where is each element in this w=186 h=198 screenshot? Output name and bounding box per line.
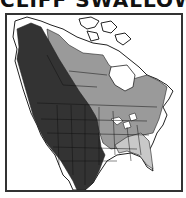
map-title: CLIFF SWALLOW <box>0 0 186 12</box>
range-map <box>7 15 181 190</box>
range-map-frame <box>5 13 183 192</box>
